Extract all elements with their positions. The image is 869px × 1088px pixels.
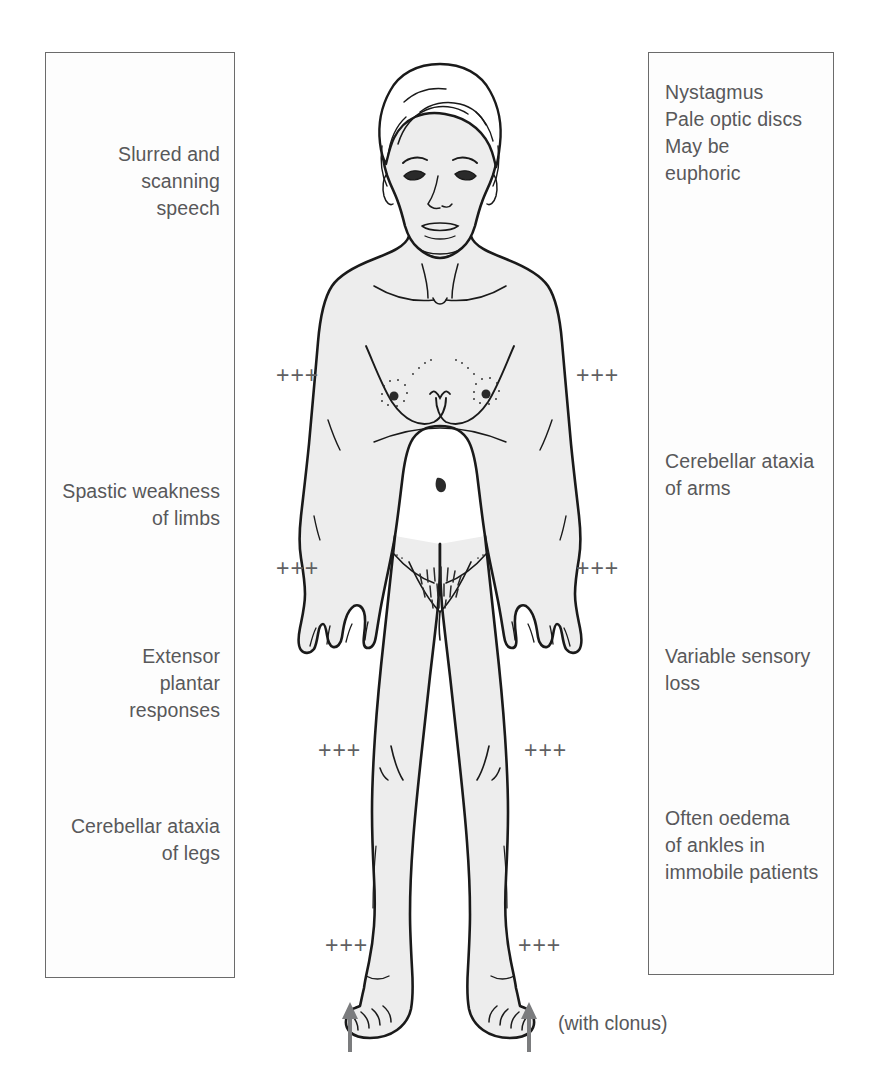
note-cerebellar-ataxia-of-legs: Cerebellar ataxiaof legs [71, 813, 220, 867]
clonus-arrow-right-icon [520, 1000, 538, 1052]
note-variable-sensory-loss: Variable sensoryloss [665, 643, 810, 697]
reflex-marker-knee-left: +++ [318, 739, 361, 762]
note-extensor-plantar-responses: Extensorplantarresponses [129, 643, 220, 724]
reflex-marker-biceps-right: +++ [576, 364, 619, 387]
reflex-marker-supinator-left: +++ [276, 557, 319, 580]
right-annotation-panel: NystagmusPale optic discsMay beeuphoric … [648, 52, 834, 975]
reflex-marker-knee-right: +++ [524, 739, 567, 762]
ms-clinical-signs-diagram: Slurred andscanningspeech Spastic weakne… [0, 0, 869, 1088]
clonus-arrow-left-icon [341, 1000, 359, 1052]
note-often-oedema-of-ankles: Often oedemaof ankles inimmobile patient… [665, 805, 818, 886]
reflex-marker-supinator-right: +++ [576, 557, 619, 580]
reflex-marker-ankle-left: +++ [325, 934, 368, 957]
note-spastic-weakness-of-limbs: Spastic weaknessof limbs [62, 478, 220, 532]
clonus-caption: (with clonus) [558, 1010, 667, 1036]
left-annotation-panel: Slurred andscanningspeech Spastic weakne… [45, 52, 235, 978]
note-cerebellar-ataxia-of-arms: Cerebellar ataxiaof arms [665, 448, 814, 502]
reflex-marker-ankle-right: +++ [518, 934, 561, 957]
note-slurred-scanning-speech: Slurred andscanningspeech [118, 141, 220, 222]
reflex-marker-biceps-left: +++ [276, 364, 319, 387]
female-body-illustration [270, 46, 610, 1056]
note-nystagmus-optic-discs-euphoria: NystagmusPale optic discsMay beeuphoric [665, 79, 802, 187]
